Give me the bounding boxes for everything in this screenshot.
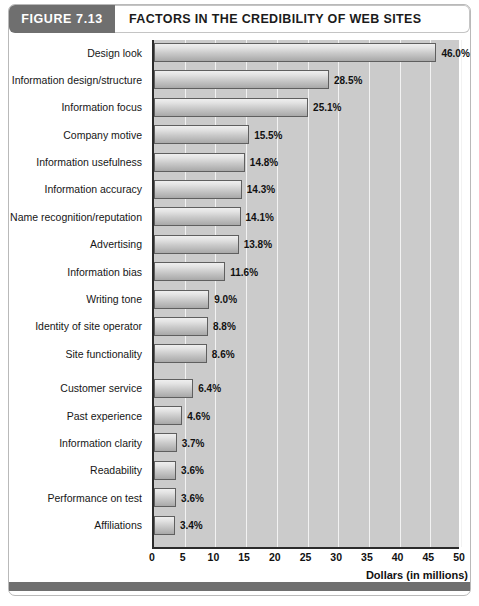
- figure-page: FIGURE 7.13 FACTORS IN THE CREDIBILITY O…: [0, 0, 479, 606]
- bar-value-label: 3.6%: [181, 465, 204, 476]
- bar-row: 14.8%: [154, 153, 461, 172]
- chart-area: Design lookInformation design/structureI…: [9, 36, 470, 571]
- bar[interactable]: [154, 207, 241, 226]
- bar-value-label: 28.5%: [334, 74, 362, 85]
- bar-value-label: 14.8%: [250, 157, 278, 168]
- bar[interactable]: [154, 43, 436, 62]
- category-label: Site functionality: [66, 344, 142, 363]
- bar[interactable]: [154, 125, 249, 144]
- x-tick-label: 5: [180, 551, 186, 563]
- bar[interactable]: [154, 461, 176, 480]
- bar-value-label: 11.6%: [230, 266, 258, 277]
- bar[interactable]: [154, 406, 182, 425]
- category-label: Name recognition/reputation: [10, 207, 142, 226]
- bar-value-label: 14.1%: [246, 211, 274, 222]
- category-label: Information focus: [61, 98, 142, 117]
- bar-value-label: 6.4%: [198, 383, 221, 394]
- category-label: Information usefulness: [36, 153, 142, 172]
- bar[interactable]: [154, 98, 308, 117]
- x-tick-label: 0: [149, 551, 155, 563]
- x-axis-ticks: 05101520253035404550: [152, 551, 459, 567]
- figure-title: FACTORS IN THE CREDIBILITY OF WEB SITES: [115, 5, 470, 33]
- footer-rule: [9, 582, 470, 591]
- plot-area: 46.0%28.5%25.1%15.5%14.8%14.3%14.1%13.8%…: [152, 40, 459, 549]
- bar[interactable]: [154, 317, 208, 336]
- bar-row: 25.1%: [154, 98, 461, 117]
- category-label: Advertising: [90, 235, 142, 254]
- bar-value-label: 8.6%: [212, 348, 235, 359]
- x-tick-label: 40: [392, 551, 404, 563]
- category-label: Company motive: [63, 125, 142, 144]
- bar-row: 28.5%: [154, 70, 461, 89]
- x-tick-label: 15: [238, 551, 250, 563]
- bar-series: 46.0%28.5%25.1%15.5%14.8%14.3%14.1%13.8%…: [154, 40, 459, 547]
- bar-row: 8.6%: [154, 344, 461, 363]
- bar-row: 3.6%: [154, 488, 461, 507]
- bar[interactable]: [154, 153, 245, 172]
- bar-value-label: 25.1%: [313, 102, 341, 113]
- figure-header: FIGURE 7.13 FACTORS IN THE CREDIBILITY O…: [9, 5, 470, 33]
- bar-value-label: 13.8%: [244, 239, 272, 250]
- figure-number-tag: FIGURE 7.13: [9, 5, 115, 33]
- bar-value-label: 3.4%: [180, 520, 203, 531]
- bar-value-label: 14.3%: [247, 184, 275, 195]
- bar-row: 13.8%: [154, 235, 461, 254]
- x-axis-label: Dollars (in millions): [366, 569, 468, 581]
- bar-value-label: 46.0%: [441, 47, 469, 58]
- x-tick-label: 30: [330, 551, 342, 563]
- bar-row: 14.3%: [154, 180, 461, 199]
- bar-row: 11.6%: [154, 262, 461, 281]
- bar[interactable]: [154, 262, 225, 281]
- bar[interactable]: [154, 70, 329, 89]
- category-labels: Design lookInformation design/structureI…: [9, 40, 148, 549]
- bar-value-label: 15.5%: [254, 129, 282, 140]
- bar[interactable]: [154, 379, 193, 398]
- category-label: Affiliations: [94, 516, 142, 535]
- x-tick-label: 50: [453, 551, 465, 563]
- bar-row: 14.1%: [154, 207, 461, 226]
- bar-value-label: 3.7%: [182, 437, 205, 448]
- x-tick-label: 20: [269, 551, 281, 563]
- bar-row: 4.6%: [154, 406, 461, 425]
- category-label: Performance on test: [47, 488, 142, 507]
- bar-row: 9.0%: [154, 290, 461, 309]
- category-label: Information bias: [67, 262, 142, 281]
- category-label: Past experience: [67, 406, 142, 425]
- category-label: Information design/structure: [12, 70, 142, 89]
- bar-row: 3.4%: [154, 516, 461, 535]
- x-tick-label: 25: [300, 551, 312, 563]
- x-tick-label: 35: [361, 551, 373, 563]
- bar-row: 3.7%: [154, 433, 461, 452]
- bar[interactable]: [154, 235, 239, 254]
- bar[interactable]: [154, 433, 177, 452]
- gridline: [461, 40, 462, 547]
- bar-value-label: 9.0%: [214, 294, 237, 305]
- bar[interactable]: [154, 344, 207, 363]
- x-tick-label: 10: [208, 551, 220, 563]
- bar-row: 6.4%: [154, 379, 461, 398]
- category-label: Identity of site operator: [35, 317, 142, 336]
- bar-value-label: 8.8%: [213, 321, 236, 332]
- bar-value-label: 4.6%: [187, 410, 210, 421]
- category-label: Writing tone: [86, 290, 142, 309]
- category-label: Readability: [90, 461, 142, 480]
- category-label: Information accuracy: [45, 180, 142, 199]
- bar-row: 3.6%: [154, 461, 461, 480]
- bar-row: 15.5%: [154, 125, 461, 144]
- bar-value-label: 3.6%: [181, 492, 204, 503]
- x-tick-label: 45: [422, 551, 434, 563]
- category-label: Customer service: [60, 379, 142, 398]
- bar[interactable]: [154, 290, 209, 309]
- bar[interactable]: [154, 180, 242, 199]
- bar[interactable]: [154, 516, 175, 535]
- category-label: Information clarity: [59, 433, 142, 452]
- bar[interactable]: [154, 488, 176, 507]
- bar-row: 8.8%: [154, 317, 461, 336]
- bar-row: 46.0%: [154, 43, 461, 62]
- category-label: Design look: [87, 43, 142, 62]
